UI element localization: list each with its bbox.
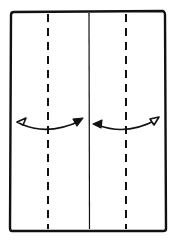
center-crease-line	[89, 13, 90, 229]
paper-outline	[10, 11, 166, 231]
origami-fold-diagram	[0, 0, 174, 241]
